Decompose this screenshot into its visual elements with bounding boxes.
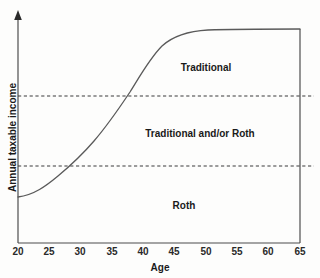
chart-figure: 20 25 30 35 40 45 50 55 60 65 Age Annual… [0,0,320,278]
chart-plot-area [0,0,320,278]
x-tick-label-50: 50 [193,246,219,257]
x-tick-label-25: 25 [36,246,62,257]
y-axis-title: Annual taxable income [7,58,18,218]
income-curve [18,29,300,197]
x-tick-label-60: 60 [255,246,281,257]
x-tick-label-20: 20 [5,246,31,257]
x-tick-label-55: 55 [224,246,250,257]
region-label-roth: Roth [173,200,196,211]
region-label-traditional: Traditional [181,62,232,73]
x-axis-title: Age [0,262,320,273]
region-label-traditional-and-or-roth: Traditional and/or Roth [145,128,254,139]
x-tick-label-30: 30 [67,246,93,257]
x-tick-label-45: 45 [161,246,187,257]
x-tick-label-65: 65 [287,246,313,257]
x-tick-label-35: 35 [99,246,125,257]
x-tick-label-40: 40 [130,246,156,257]
y-axis-arrow-icon [14,10,22,20]
